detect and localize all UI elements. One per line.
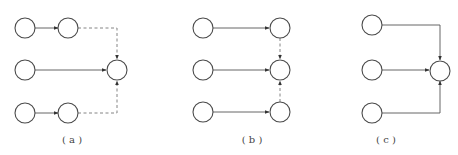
node-b4 — [270, 60, 290, 80]
panel-c: ( c ) — [362, 15, 450, 145]
panel-label-b: ( b ) — [242, 134, 263, 145]
node-c3 — [362, 103, 382, 123]
edge-a2-a6 — [78, 28, 117, 59]
node-c1 — [362, 15, 382, 35]
diagram-canvas: ( a ) ( b ) ( c ) — [0, 0, 458, 155]
node-b3 — [193, 60, 213, 80]
node-b6 — [270, 102, 290, 122]
node-b2 — [270, 18, 290, 38]
panel-b: ( b ) — [193, 18, 290, 145]
edge-c1-c4 — [382, 25, 440, 60]
edge-a5-a6 — [78, 81, 117, 113]
edge-c3-c4 — [382, 81, 440, 113]
node-a2 — [58, 18, 78, 38]
node-a6 — [107, 60, 127, 80]
panel-label-c: ( c ) — [376, 134, 396, 145]
node-a5 — [58, 103, 78, 123]
panel-label-a: ( a ) — [62, 134, 82, 145]
node-c4 — [430, 61, 450, 81]
node-b1 — [193, 18, 213, 38]
panel-a: ( a ) — [15, 18, 127, 145]
node-c2 — [362, 60, 382, 80]
node-a4 — [15, 103, 35, 123]
node-b5 — [193, 102, 213, 122]
node-a1 — [15, 18, 35, 38]
node-a3 — [15, 60, 35, 80]
